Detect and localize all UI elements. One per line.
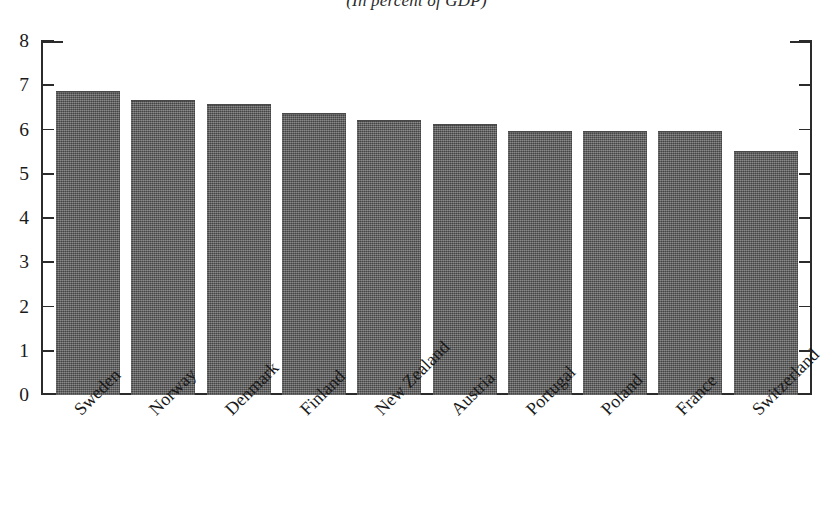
bar xyxy=(357,120,421,395)
y-tick-label: 7 xyxy=(19,76,29,96)
bar xyxy=(658,131,722,395)
bar xyxy=(282,113,346,395)
bar xyxy=(56,91,120,395)
y-tick-label: 6 xyxy=(19,120,29,140)
bar-series xyxy=(41,41,812,395)
bar-chart-figure: (In percent of GDP) 876543210 SwedenNorw… xyxy=(0,0,833,505)
chart-subtitle: (In percent of GDP) xyxy=(0,0,833,11)
bar xyxy=(583,131,647,395)
x-axis-category-labels: SwedenNorwayDenmarkFinlandNew ZealandAus… xyxy=(41,395,812,505)
y-tick-label: 3 xyxy=(19,253,29,273)
y-tick-label: 1 xyxy=(19,341,29,361)
y-tick-label: 5 xyxy=(19,164,29,184)
y-axis-tick-labels: 876543210 xyxy=(0,41,41,395)
y-tick-label: 2 xyxy=(19,297,29,317)
y-tick-label: 0 xyxy=(19,385,29,405)
y-tick-label: 8 xyxy=(19,31,29,51)
bar xyxy=(734,151,798,395)
bar xyxy=(508,131,572,395)
bar xyxy=(131,100,195,395)
bar xyxy=(207,104,271,395)
y-tick-label: 4 xyxy=(19,208,29,228)
